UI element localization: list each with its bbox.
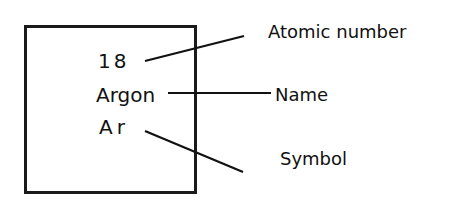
atomic-number-label: Atomic number [268,21,406,43]
name-label: Name [275,84,328,106]
atomic-number-leader-line [145,36,244,61]
symbol-leader-line [145,131,243,172]
symbol-label: Symbol [280,148,347,170]
